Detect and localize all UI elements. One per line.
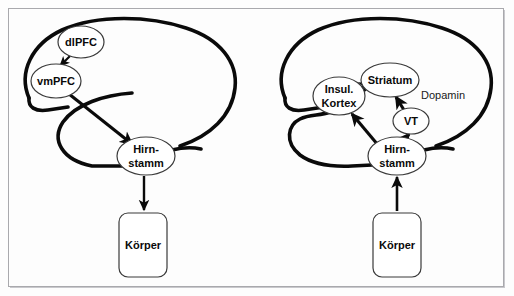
figure-root: dlPFC vmPFC Hirn- stamm Körper bbox=[0, 0, 514, 296]
node-vt-label: VT bbox=[404, 115, 418, 127]
node-left-hirnstamm-label-line1: Hirn- bbox=[133, 143, 159, 155]
node-left-koerper-label: Körper bbox=[125, 239, 162, 251]
node-vt[interactable]: VT bbox=[393, 108, 429, 134]
node-vmpfc-label: vmPFC bbox=[37, 75, 75, 87]
node-striatum-label: Striatum bbox=[368, 74, 413, 86]
node-right-koerper[interactable]: Körper bbox=[373, 213, 421, 277]
node-left-hirnstamm[interactable]: Hirn- stamm bbox=[117, 137, 175, 175]
node-insul-kortex-label-line1: Insul. bbox=[325, 83, 354, 95]
node-right-hirnstamm[interactable]: Hirn- stamm bbox=[368, 137, 426, 175]
diagram-canvas: dlPFC vmPFC Hirn- stamm Körper bbox=[0, 0, 514, 296]
node-left-hirnstamm-label-line2: stamm bbox=[128, 157, 164, 169]
node-dlpfc[interactable]: dlPFC bbox=[58, 26, 104, 58]
node-vmpfc[interactable]: vmPFC bbox=[31, 64, 81, 98]
edge-vt-to-striatum bbox=[396, 97, 404, 110]
node-dlpfc-label: dlPFC bbox=[65, 36, 97, 48]
edge-hirnstamm-to-insulkortex bbox=[352, 114, 378, 145]
node-left-koerper[interactable]: Körper bbox=[119, 213, 167, 277]
node-insul-kortex-label-line2: Kortex bbox=[322, 97, 358, 109]
node-insul-kortex[interactable]: Insul. Kortex bbox=[313, 77, 365, 115]
node-striatum[interactable]: Striatum bbox=[361, 63, 419, 97]
node-right-koerper-label: Körper bbox=[379, 239, 416, 251]
node-right-hirnstamm-label-line2: stamm bbox=[379, 157, 415, 169]
node-right-hirnstamm-label-line1: Hirn- bbox=[384, 143, 410, 155]
dopamin-annotation-label: Dopamin bbox=[421, 89, 465, 101]
edge-vmpfc-to-hirnstamm bbox=[69, 94, 132, 144]
